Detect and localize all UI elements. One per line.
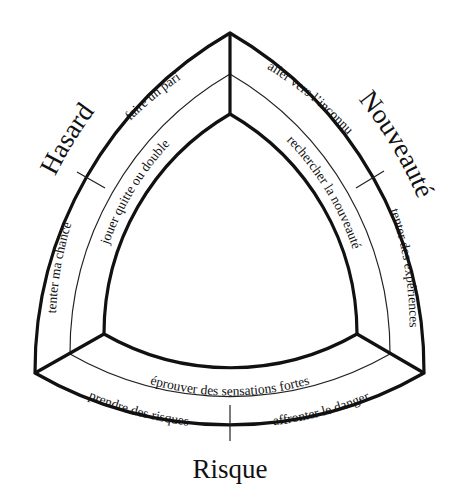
spoke-right [357,334,424,373]
spoke-left [35,334,104,373]
label-jouer-quitte-ou-double: jouer quitte ou double [97,136,172,247]
label-aller-vers-inconnu: aller vers l’inconnu [265,58,357,137]
label-rechercher-la-nouveaute: rechercher la nouveauté [284,132,364,251]
reuleaux-diagram: faire un pari tenter ma chance aller ver… [0,0,470,502]
category-risque: Risque [192,454,267,484]
label-eprouver-des-sensations-fortes: éprouver des sensations fortes [149,373,311,399]
label-tenter-des-experiences: tenter des expériences [387,206,421,327]
label-affronter-le-danger: affronter le danger [272,388,372,428]
inner-boundary [104,114,357,368]
category-nouveaute: Nouveauté [354,85,441,202]
label-prendre-des-risques: prendre des risques [87,387,190,428]
category-hasard: Hasard [34,97,100,179]
